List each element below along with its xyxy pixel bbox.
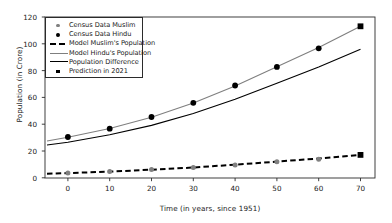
legend-item-census-data-hindu: Census Data Hindu <box>49 30 138 39</box>
legend-label: Population Difference <box>69 58 139 67</box>
legend-label: Model Muslim's Population <box>69 39 155 48</box>
black-circle-marker-icon <box>49 30 69 39</box>
legend-item-population-difference: Population Difference <box>49 58 138 67</box>
legend-item-model-hindu-population: Model Hindu's Population <box>49 49 138 58</box>
chart-figure: Population (in Crore) Time (in years, si… <box>0 0 392 223</box>
black-square-marker-icon <box>49 67 69 76</box>
gray-solid-line-marker-icon <box>49 49 69 58</box>
legend-label: Census Data Muslim <box>69 21 135 30</box>
legend-item-prediction-in-2021: Prediction in 2021 <box>49 67 138 76</box>
black-solid-line-marker-icon <box>49 58 69 67</box>
chart-legend: Census Data Muslim Census Data Hindu Mod… <box>45 17 143 78</box>
legend-label: Prediction in 2021 <box>69 67 128 76</box>
series-model-muslim-population <box>47 155 361 174</box>
legend-label: Census Data Hindu <box>69 30 131 39</box>
series-prediction-in-2021 <box>358 23 364 157</box>
legend-item-census-data-muslim: Census Data Muslim <box>49 21 138 30</box>
legend-label: Model Hindu's Population <box>69 49 151 58</box>
legend-item-model-muslim-population: Model Muslim's Population <box>49 39 138 48</box>
gray-circle-marker-icon <box>49 21 69 30</box>
black-dashed-line-marker-icon <box>49 39 69 48</box>
